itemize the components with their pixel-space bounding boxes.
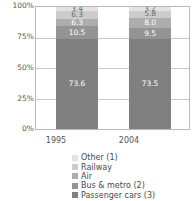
legend-swatch-icon	[72, 183, 78, 189]
x-tick-label-1995: 1995	[21, 136, 91, 145]
x-tick-label-2004: 2004	[94, 136, 164, 145]
bar-segment[interactable]: 10.5	[56, 26, 98, 39]
bar-segment[interactable]: 73.5	[129, 39, 171, 129]
legend-item[interactable]: Passenger cars (3)	[72, 191, 196, 200]
legend-item-label: Air	[81, 172, 92, 181]
legend-item[interactable]: Other (1)	[72, 153, 196, 162]
y-tick-label: 75%	[0, 33, 34, 41]
bar-segment[interactable]: 9.5	[129, 28, 171, 40]
y-tick-label: 100%	[0, 2, 34, 10]
legend-swatch-icon	[72, 155, 78, 161]
bar-2004[interactable]: 3.25.88.09.573.5	[129, 7, 171, 129]
legend-item-label: Other (1)	[81, 153, 118, 162]
bar-segment-label: 73.5	[142, 80, 158, 88]
legend-item[interactable]: Railway	[72, 162, 196, 171]
bar-segment-label: 8.0	[144, 19, 156, 27]
bar-segment[interactable]: 73.6	[56, 39, 98, 129]
legend-swatch-icon	[72, 164, 78, 170]
legend-item[interactable]: Air	[72, 172, 196, 181]
y-tick-label: 50%	[0, 64, 34, 72]
legend: Other (1)RailwayAirBus & metro (2)Passen…	[72, 153, 196, 200]
legend-item-label: Railway	[81, 163, 112, 172]
bar-1995[interactable]: 3.46.36.310.573.6	[56, 7, 98, 129]
legend-item-label: Passenger cars (3)	[81, 191, 155, 200]
y-tick-label: 25%	[0, 95, 34, 103]
y-tick-label: 0%	[0, 125, 34, 133]
bar-segment-label: 73.6	[69, 80, 85, 88]
plot-area: 3.46.36.310.573.6 3.25.88.09.573.5	[35, 6, 190, 130]
bar-segment-label: 10.5	[69, 29, 85, 37]
legend-swatch-icon	[72, 173, 78, 179]
bar-segment[interactable]: 5.8	[129, 11, 171, 18]
chart-root: 100% 75% 50% 25% 0% 3.46.36.310.573.6 3.…	[0, 0, 196, 201]
legend-item[interactable]: Bus & metro (2)	[72, 181, 196, 190]
bar-segment-label: 9.5	[144, 30, 156, 38]
bar-segment[interactable]: 6.3	[56, 11, 98, 19]
bar-segment[interactable]: 8.0	[129, 18, 171, 28]
bar-segment-label: 5.8	[144, 11, 156, 18]
legend-swatch-icon	[72, 192, 78, 198]
bar-segment[interactable]: 6.3	[56, 19, 98, 27]
bar-segment-label: 6.3	[71, 19, 83, 27]
bar-segment-label: 6.3	[71, 11, 83, 19]
legend-item-label: Bus & metro (2)	[81, 181, 145, 190]
